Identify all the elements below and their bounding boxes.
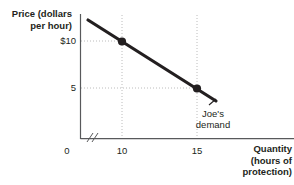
y-axis-tick-label-10: $10 (42, 36, 76, 46)
x-axis-tick-label-15: 15 (185, 146, 209, 156)
y-axis-title: Price (dollars per hour) (0, 8, 72, 31)
demand-curve-figure: Price (dollars per hour) Quantity (hours… (0, 0, 294, 185)
x-axis-tick-label-10: 10 (110, 146, 134, 156)
data-point-q15-p5 (193, 84, 201, 92)
data-point-q10-p10 (118, 37, 126, 45)
x-axis-break-mark-1 (87, 133, 93, 142)
x-axis-break-mark-2 (92, 133, 98, 142)
x-axis-title: Quantity (hours of protection) (204, 143, 292, 178)
x-axis-tick-label-0: 0 (55, 146, 79, 156)
series-annotation-joes-demand: Joe's demand (180, 108, 246, 130)
y-axis-tick-label-5: 5 (42, 83, 76, 93)
